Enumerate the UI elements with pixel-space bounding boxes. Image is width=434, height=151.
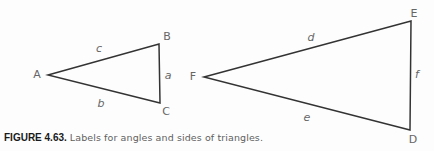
vertex-label-f: F <box>190 71 196 82</box>
side-label-f: f <box>415 69 419 80</box>
vertex-label-c: C <box>162 106 170 117</box>
side-label-a: a <box>165 70 172 81</box>
figure-caption-number: FIGURE 4.63. <box>4 132 67 143</box>
figure-caption: FIGURE 4.63.Labels for angles and sides … <box>4 130 263 144</box>
triangle-abc-outline <box>48 44 160 103</box>
side-label-c: c <box>96 43 102 54</box>
triangles-drawing <box>0 0 434 151</box>
figure-4-63: A B C c a b F E D d f e FIGURE 4.63.Labe… <box>0 0 434 151</box>
side-label-e: e <box>304 112 311 123</box>
vertex-label-e: E <box>411 8 418 19</box>
vertex-label-a: A <box>33 69 41 80</box>
vertex-label-b: B <box>163 31 171 42</box>
side-label-b: b <box>98 98 105 109</box>
side-label-d: d <box>308 32 315 43</box>
figure-caption-text: Labels for angles and sides of triangles… <box>70 132 263 143</box>
vertex-label-d: D <box>409 134 417 145</box>
